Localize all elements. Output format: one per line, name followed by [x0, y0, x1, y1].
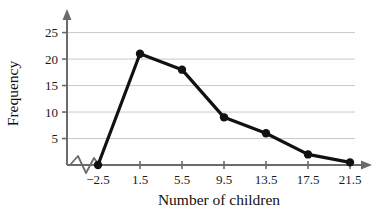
x-tick-label-5: 17.5: [297, 172, 320, 187]
data-point-marker-1[interactable]: [136, 50, 144, 58]
y-axis-title: Frequency: [4, 61, 21, 127]
chart-canvas: 510152025−2.51.55.59.513.517.521.5Freque…: [0, 0, 375, 211]
series-line-frequency: [98, 54, 350, 165]
x-tick-label-2: 5.5: [174, 172, 190, 187]
y-tick-label-10: 10: [45, 105, 58, 120]
y-tick-label-5: 5: [52, 131, 59, 146]
x-tick-label-3: 9.5: [216, 172, 232, 187]
x-tick-label-4: 13.5: [255, 172, 278, 187]
y-axis-arrow-icon: [63, 9, 72, 20]
data-point-marker-0[interactable]: [94, 161, 102, 169]
y-tick-label-15: 15: [45, 78, 58, 93]
data-point-marker-5[interactable]: [304, 150, 312, 158]
data-point-marker-4[interactable]: [262, 129, 270, 137]
data-point-marker-2[interactable]: [178, 65, 186, 73]
data-point-marker-3[interactable]: [220, 113, 228, 121]
x-tick-label-0: −2.5: [86, 172, 110, 187]
x-tick-label-6: 21.5: [339, 172, 362, 187]
x-axis-arrow-icon: [361, 161, 372, 170]
y-tick-label-25: 25: [45, 25, 58, 40]
x-axis-title: Number of children: [158, 191, 280, 208]
frequency-polygon-chart: 510152025−2.51.55.59.513.517.521.5Freque…: [0, 0, 375, 211]
data-point-marker-6[interactable]: [346, 158, 354, 166]
y-tick-label-20: 20: [45, 52, 58, 67]
x-tick-label-1: 1.5: [132, 172, 148, 187]
